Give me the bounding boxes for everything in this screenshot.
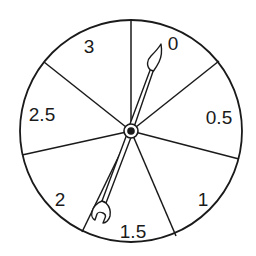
spinner-diagram: 0 0.5 1 1.5 2 2.5 3 [0,0,256,256]
spinner-svg: 0 0.5 1 1.5 2 2.5 3 [0,0,256,256]
hub-pin-icon [127,127,135,135]
sector-label-2-5: 2.5 [29,104,55,125]
sector-label-0-5: 0.5 [206,107,232,128]
sector-label-2: 2 [55,189,66,210]
sector-label-1: 1 [198,189,209,210]
sector-label-3: 3 [84,36,95,57]
sector-label-1-5: 1.5 [120,221,146,242]
sector-label-0: 0 [168,33,179,54]
spinner-hub [124,124,138,138]
